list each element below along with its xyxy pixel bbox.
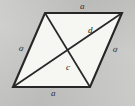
label-side-bottom: a — [51, 89, 56, 98]
label-side-top: a — [80, 2, 85, 11]
geometry-figure: a a a a d c — [0, 0, 135, 106]
label-angle-c: c — [66, 63, 70, 72]
label-diagonal-d: d — [88, 26, 93, 35]
